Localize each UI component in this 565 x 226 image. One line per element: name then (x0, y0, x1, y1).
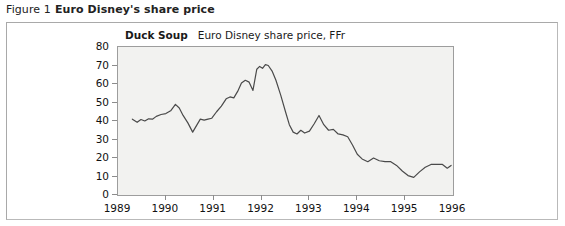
y-tick-label: 30 (83, 134, 109, 145)
y-tick-label: 10 (83, 171, 109, 182)
line-chart: Duck SoupEuro Disney share price, FFr 01… (7, 23, 559, 221)
figure-caption: Figure 1Euro Disney's share price (6, 3, 215, 17)
y-tick-mark (112, 176, 117, 177)
y-tick-mark (112, 120, 117, 121)
x-tick-mark (165, 195, 166, 200)
x-tick-mark (404, 195, 405, 200)
y-tick-mark (112, 139, 117, 140)
series-line (132, 65, 451, 178)
x-tick-label: 1993 (286, 203, 330, 214)
x-tick-label: 1996 (430, 203, 474, 214)
y-tick-mark (112, 194, 117, 195)
figure-number: Figure 1 (6, 3, 51, 16)
x-tick-label: 1992 (239, 203, 283, 214)
x-tick-label: 1989 (95, 203, 139, 214)
y-tick-label: 70 (83, 60, 109, 71)
plot-area (117, 46, 454, 196)
y-tick-label: 40 (83, 115, 109, 126)
chart-title: Duck Soup (125, 29, 188, 41)
x-tick-mark (308, 195, 309, 200)
y-tick-label: 80 (83, 41, 109, 52)
x-tick-label: 1995 (382, 203, 426, 214)
series-euro-disney-share-price (118, 47, 453, 195)
chart-title-block: Duck SoupEuro Disney share price, FFr (125, 29, 345, 41)
chart-subtitle: Euro Disney share price, FFr (198, 29, 345, 41)
y-tick-label: 0 (83, 189, 109, 200)
y-tick-label: 60 (83, 78, 109, 89)
x-tick-label: 1994 (334, 203, 378, 214)
x-tick-mark (261, 195, 262, 200)
y-tick-mark (112, 65, 117, 66)
y-tick-mark (112, 83, 117, 84)
x-tick-mark (213, 195, 214, 200)
x-tick-mark (356, 195, 357, 200)
x-tick-label: 1991 (191, 203, 235, 214)
y-tick-mark (112, 102, 117, 103)
y-tick-label: 20 (83, 152, 109, 163)
figure-panel: Duck SoupEuro Disney share price, FFr 01… (6, 22, 558, 220)
y-tick-label: 50 (83, 97, 109, 108)
figure-title: Euro Disney's share price (55, 3, 215, 16)
figure-root: Figure 1Euro Disney's share price Duck S… (0, 0, 565, 226)
y-tick-mark (112, 157, 117, 158)
x-tick-label: 1990 (143, 203, 187, 214)
